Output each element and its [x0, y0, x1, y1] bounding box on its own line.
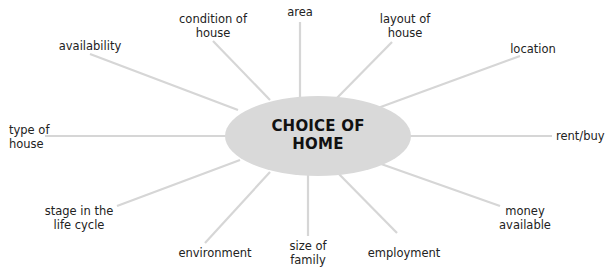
- node-availability: availability: [59, 39, 122, 53]
- spoke-money-available: [367, 159, 500, 206]
- node-stage-in-life-cycle: stage in the life cycle: [45, 204, 114, 232]
- node-environment: environment: [178, 246, 251, 260]
- node-layout-of-house: layout of house: [380, 12, 431, 40]
- center-topic: CHOICE OF HOME: [271, 117, 364, 153]
- node-location: location: [510, 42, 556, 56]
- node-area: area: [287, 5, 313, 19]
- spoke-condition-of-house: [213, 41, 270, 100]
- spoke-stage-in-life-cycle: [117, 160, 240, 206]
- node-rent-buy: rent/buy: [556, 129, 605, 143]
- spoke-availability: [90, 54, 238, 110]
- node-money-available: money available: [499, 204, 551, 232]
- node-condition-of-house: condition of house: [179, 12, 247, 40]
- node-type-of-house: type of house: [9, 123, 49, 151]
- spoke-layout-of-house: [335, 42, 392, 100]
- spoke-employment: [336, 171, 397, 233]
- spoke-environment: [205, 172, 270, 243]
- spoke-location: [367, 56, 520, 112]
- node-size-of-family: size of family: [289, 239, 326, 267]
- node-employment: employment: [368, 246, 441, 260]
